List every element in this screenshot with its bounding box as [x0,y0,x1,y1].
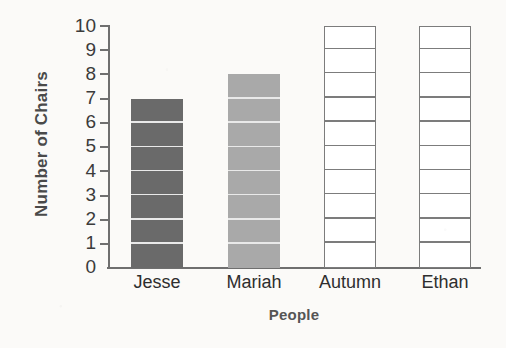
y-tick-label-5: 5 [60,136,96,155]
bar-ethan[interactable] [419,26,471,268]
bar-segment-line [420,193,470,195]
x-tick-label-mariah: Mariah [203,273,305,293]
bar-segment-line [228,121,280,123]
bar-segment-line [228,242,280,244]
x-tick-label-autumn: Autumn [299,273,401,293]
plot-area [108,26,480,268]
bar-segment-line [131,242,183,244]
y-tick-label-1: 1 [60,233,96,252]
bar-segment-line [420,145,470,147]
bar-segment-line [131,218,183,220]
bar-segment-line [420,72,470,74]
y-tick-label-4: 4 [60,161,96,180]
bar-segment-line [325,72,375,74]
y-axis-tick-labels: 10 9 8 7 6 5 4 3 2 1 0 [52,0,96,348]
bar-segment-line [228,170,280,172]
bar-segment-line [325,169,375,171]
y-tick-label-9: 9 [60,40,96,59]
bar-segment-line [228,218,280,220]
bar-segment-line [325,120,375,122]
bar-jesse[interactable] [131,99,183,268]
bar-segment-line [131,146,183,148]
y-tick-label-3: 3 [60,185,96,204]
y-tick-label-6: 6 [60,112,96,131]
y-tick-label-0: 0 [60,257,96,276]
bar-segment-line [325,193,375,195]
bar-segment-line [420,241,470,243]
bar-mariah[interactable] [228,74,280,268]
bar-segment-line [420,48,470,50]
y-tick-label-2: 2 [60,209,96,228]
bar-segment-line [228,194,280,196]
bar-segment-line [131,194,183,196]
bar-segment-line [325,217,375,219]
bar-autumn[interactable] [324,26,376,268]
x-axis-title: People [108,306,480,323]
bar-segment-line [325,241,375,243]
bar-segment-line [420,96,470,98]
bar-segment-line [131,170,183,172]
bar-segment-line [325,48,375,50]
bar-segment-line [228,97,280,99]
y-tick-label-10: 10 [60,16,96,35]
bar-segment-line [420,217,470,219]
bar-segment-line [131,121,183,123]
bar-segment-line [325,96,375,98]
bar-segment-line [420,120,470,122]
bar-segment-line [325,145,375,147]
y-axis-title: Number of Chairs [32,34,52,254]
y-tick-label-8: 8 [60,64,96,83]
y-tick-label-7: 7 [60,88,96,107]
bar-segment-line [228,146,280,148]
x-tick-label-jesse: Jesse [106,273,208,293]
x-tick-label-ethan: Ethan [394,273,496,293]
bar-segment-line [420,169,470,171]
bar-chart: Number of Chairs 10 9 8 7 6 5 4 3 2 1 0 [0,0,506,348]
